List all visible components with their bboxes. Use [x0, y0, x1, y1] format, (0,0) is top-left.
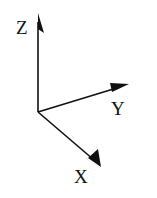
y-axis: Y — [38, 83, 129, 119]
x-axis-arrowhead-icon — [88, 149, 101, 167]
y-axis-arrowhead-icon — [110, 83, 129, 92]
x-axis: X — [38, 112, 101, 187]
x-axis-label: X — [74, 166, 88, 187]
z-axis-label: Z — [16, 17, 28, 38]
y-axis-label: Y — [111, 98, 125, 119]
coordinate-axes-diagram: Z Y X — [0, 0, 157, 198]
x-axis-line — [38, 112, 94, 160]
z-axis-arrowhead-icon — [38, 13, 44, 33]
z-axis: Z — [16, 13, 44, 112]
y-axis-line — [38, 87, 120, 112]
